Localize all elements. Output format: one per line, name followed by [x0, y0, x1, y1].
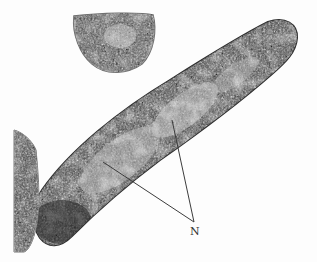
- micrograph-figure: N: [0, 0, 317, 262]
- micrograph-image: [0, 0, 317, 262]
- bacterium-rod: [0, 0, 317, 262]
- nucleoid-label: N: [190, 226, 200, 237]
